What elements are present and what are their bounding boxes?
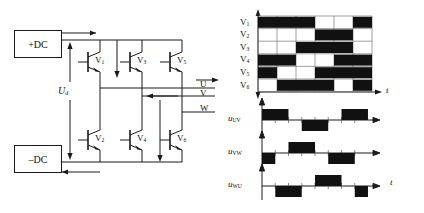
gate-row-label-v4: V4 <box>240 55 249 65</box>
figure-canvas <box>0 0 424 213</box>
switch-v1-sub: 1 <box>102 59 105 65</box>
bottom-current-arrowhead <box>62 170 68 175</box>
gate-pulse-block <box>277 80 334 91</box>
line-voltage-subscript: UV <box>233 117 241 123</box>
switch-v4-sub: 4 <box>144 137 147 143</box>
positive-dc-box: +DC <box>14 30 62 58</box>
ud-arrowhead-bottom <box>67 153 72 160</box>
line-voltage-pulse-block <box>328 153 355 164</box>
leg-u-current-arrowhead <box>114 71 119 78</box>
line-voltage-axis-arrowhead <box>259 98 264 105</box>
line-voltage-time-label: t <box>390 178 393 187</box>
ud-arrowhead-top <box>67 42 72 49</box>
line-voltage-pulse-block <box>262 109 288 120</box>
gate-chart-time-label: t <box>386 86 389 95</box>
line-voltage-pulse-block <box>262 153 275 164</box>
switch-label-v3: V3 <box>137 56 146 66</box>
line-voltage-label-vw: uVW <box>228 147 242 157</box>
figure-root: +DC –DC Ud V1 V3 V5 V2 V4 V6 U V W V1V2V… <box>0 0 424 213</box>
dc-voltage-label: Ud <box>58 86 68 97</box>
line-voltage-axis-arrowhead <box>259 164 264 171</box>
output-label-w: W <box>200 104 209 113</box>
gate-pulse-block <box>353 17 372 28</box>
gate-pulse-block <box>315 67 372 78</box>
output-v-arrowhead <box>146 93 153 98</box>
gate-row-sub: 3 <box>247 46 250 52</box>
gate-row-label-v3: V3 <box>240 43 249 53</box>
line-voltage-pulse-block <box>302 120 328 131</box>
switch-v6-sub: 6 <box>184 137 187 143</box>
gate-pulse-block <box>258 67 277 78</box>
gate-row-sub: 2 <box>247 33 250 39</box>
line-voltage-time-arrowhead <box>373 183 380 188</box>
dc-voltage-subscript: d <box>65 89 68 96</box>
line-voltage-pulse-block <box>315 175 341 186</box>
output-label-v: V <box>200 89 207 98</box>
switch-label-v6: V6 <box>177 134 186 144</box>
gate-row-sub: 1 <box>247 21 250 27</box>
line-voltage-subscript: VW <box>233 150 242 156</box>
output-top-arrowhead <box>212 77 219 82</box>
gate-pulse-block <box>334 55 372 66</box>
gate-row-sub: 6 <box>247 84 250 90</box>
switch-label-v2: V2 <box>95 134 104 144</box>
leg-v-current-arrowhead <box>157 155 162 162</box>
switch-v5-sub: 5 <box>184 59 187 65</box>
switch-label-v1: V1 <box>95 56 104 66</box>
gate-chart-axis-arrow-bottom <box>256 92 261 99</box>
positive-dc-label: +DC <box>28 39 48 50</box>
switch-v3-sub: 3 <box>144 59 147 65</box>
line-voltage-subscript: WU <box>233 183 242 189</box>
switch-label-v4: V4 <box>137 134 146 144</box>
line-voltage-pulse-block <box>342 109 368 120</box>
line-voltage-pulse-block <box>355 186 368 197</box>
gate-pulse-block <box>296 42 353 53</box>
gate-row-sub: 4 <box>247 59 250 65</box>
gate-row-sub: 5 <box>247 71 250 77</box>
line-voltage-pulse-block <box>288 142 315 153</box>
line-voltage-label-wu: uWU <box>228 180 242 190</box>
switch-v2-sub: 2 <box>102 137 105 143</box>
line-voltage-axis-arrowhead <box>259 131 264 138</box>
gate-chart-axis-arrow-top <box>256 9 261 16</box>
top-current-arrowhead <box>90 31 96 36</box>
gate-row-label-v2: V2 <box>240 30 249 40</box>
gate-row-label-v1: V1 <box>240 18 249 28</box>
negative-dc-label: –DC <box>29 154 48 165</box>
line-voltage-label-uv: uUV <box>228 114 241 124</box>
line-voltage-pulse-block <box>275 186 301 197</box>
line-voltage-time-arrowhead <box>373 117 380 122</box>
gate-row-label-v6: V6 <box>240 81 249 91</box>
gate-chart-time-arrowhead <box>375 89 382 94</box>
gate-row-label-v5: V5 <box>240 68 249 78</box>
line-voltage-time-arrowhead <box>373 150 380 155</box>
switch-label-v5: V5 <box>177 56 186 66</box>
gate-pulse-block <box>258 17 315 28</box>
gate-pulse-block <box>258 55 296 66</box>
gate-pulse-block <box>353 80 372 91</box>
negative-dc-box: –DC <box>14 145 62 173</box>
gate-pulse-block <box>315 29 353 40</box>
